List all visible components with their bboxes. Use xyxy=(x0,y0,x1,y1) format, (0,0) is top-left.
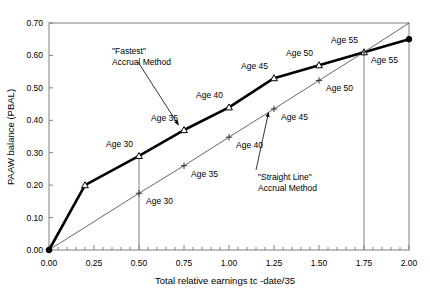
annotation-label-line2: Accrual Method xyxy=(112,57,171,67)
data-point-label: Age 55 xyxy=(371,55,398,65)
y-tick-label: 0.20 xyxy=(26,180,43,190)
data-point-label: Age 30 xyxy=(106,139,133,149)
series-endpoint-marker xyxy=(47,248,51,252)
data-point-label: Age 30 xyxy=(146,196,173,206)
y-tick-label: 0.00 xyxy=(26,245,43,255)
x-tick-label: 0.50 xyxy=(131,258,148,268)
y-tick-label: 0.30 xyxy=(26,148,43,158)
x-axis-title: Total relative earnings tc -date/35 xyxy=(155,275,295,286)
chart-container: 0.000.100.200.300.400.500.600.70 0.000.2… xyxy=(0,0,430,292)
paaw-balance-line-chart: 0.000.100.200.300.400.500.600.70 0.000.2… xyxy=(0,0,430,292)
y-tick-label: 0.70 xyxy=(26,18,43,28)
y-tick-label: 0.40 xyxy=(26,115,43,125)
x-tick-label: 0.00 xyxy=(41,258,58,268)
y-tick-label: 0.60 xyxy=(26,50,43,60)
annotation-label-line1: "Fastest" xyxy=(112,46,146,56)
y-axis-title: PAAW balance (PBAL) xyxy=(5,89,16,185)
y-tick-label: 0.50 xyxy=(26,83,43,93)
x-tick-label: 1.00 xyxy=(221,258,238,268)
data-point-label: Age 50 xyxy=(326,83,353,93)
x-tick-label: 1.50 xyxy=(311,258,328,268)
data-point-label: Age 40 xyxy=(236,140,263,150)
data-point-label: Age 40 xyxy=(196,90,223,100)
x-tick-label: 0.75 xyxy=(176,258,193,268)
annotation-label-line1: "Straight Line" xyxy=(258,172,312,182)
data-point-label: Age 55 xyxy=(331,35,358,45)
x-tick-label: 1.25 xyxy=(266,258,283,268)
annotation-label-line2: Accrual Method xyxy=(258,183,317,193)
data-point-label: Age 35 xyxy=(191,169,218,179)
data-point-label: Age 45 xyxy=(241,61,268,71)
x-tick-label: 1.75 xyxy=(356,258,373,268)
x-tick-label: 0.25 xyxy=(86,258,103,268)
series-endpoint-marker xyxy=(406,36,412,42)
data-point-label: Age 45 xyxy=(281,112,308,122)
y-tick-label: 0.10 xyxy=(26,213,43,223)
data-point-label: Age 50 xyxy=(286,48,313,58)
x-tick-label: 2.00 xyxy=(401,258,418,268)
